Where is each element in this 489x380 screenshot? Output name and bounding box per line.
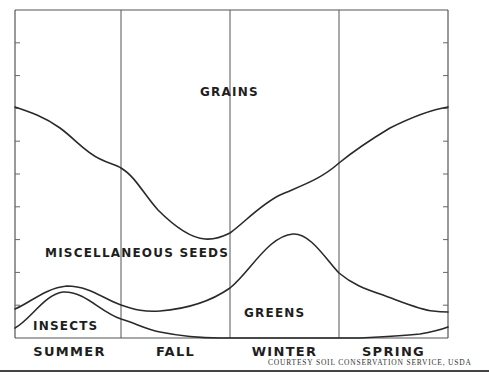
misc-seeds-label: MISCELLANEOUS SEEDS [45, 247, 229, 259]
plot-frame [15, 10, 448, 338]
grains-boundary-curve [15, 107, 448, 239]
bottom-rule [0, 370, 489, 372]
curves [15, 107, 448, 338]
source-credit: COURTESY SOIL CONSERVATION SERVICE, USDA [268, 358, 472, 367]
greens-label: GREENS [244, 307, 305, 319]
insects-label: INSECTS [33, 320, 98, 332]
grains-label: GRAINS [200, 86, 259, 98]
x-tick-summer: SUMMER [15, 345, 124, 358]
x-tick-fall: FALL [121, 345, 230, 358]
x-tick-winter: WINTER [230, 345, 339, 358]
x-tick-spring: SPRING [339, 345, 448, 358]
y-axis-ticks [15, 43, 448, 305]
